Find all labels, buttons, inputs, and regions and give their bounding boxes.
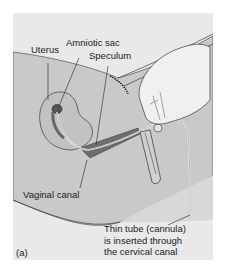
- figure-panel: Uterus Amniotic sac Speculum Vaginal can…: [13, 13, 213, 260]
- label-uterus: Uterus: [31, 44, 59, 55]
- caption-cannula: Thin tube (cannula) is inserted through …: [104, 223, 186, 258]
- caption-line-3: the cervical canal: [104, 246, 186, 258]
- label-speculum: Speculum: [89, 50, 131, 61]
- caption-line-2: is inserted through: [104, 235, 186, 247]
- label-amniotic-sac: Amniotic sac: [66, 37, 120, 48]
- label-vaginal-canal: Vaginal canal: [23, 189, 79, 200]
- panel-label: (a): [16, 247, 28, 258]
- caption-line-1: Thin tube (cannula): [104, 223, 186, 235]
